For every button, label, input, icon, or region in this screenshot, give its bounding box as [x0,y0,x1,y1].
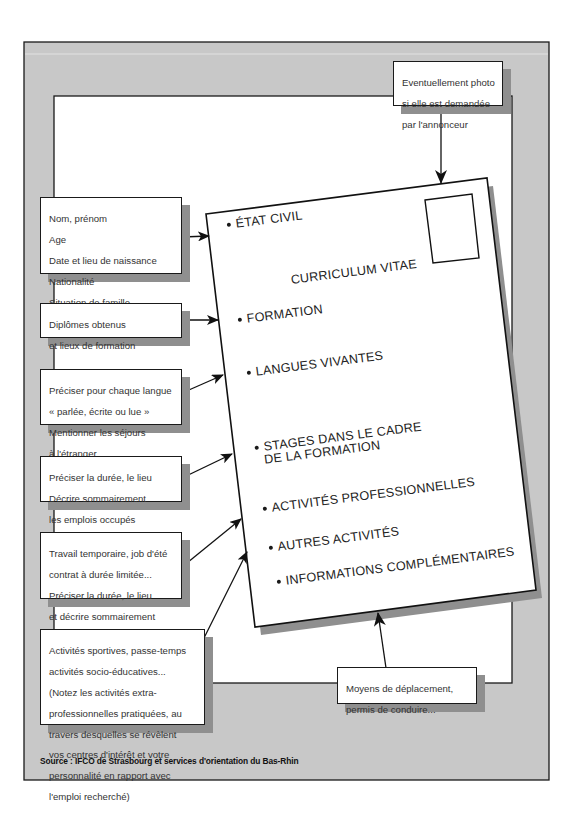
callout-etat-civil: Nom, prénom Age Date et lieu de naissanc… [40,197,182,274]
bullet-icon [263,506,267,510]
callout-complementaires: Moyens de déplacement, permis de conduir… [337,667,477,704]
bullet-icon [269,545,273,549]
bullet-icon [277,579,281,583]
source-caption: Source : IFCO de Strasbourg et services … [40,756,298,766]
callout-stages: Préciser la durée, le lieu Décrire somma… [40,456,182,502]
callout-formation: Diplômes obtenus et lieux de formation [40,303,182,338]
bullet-icon [254,445,258,449]
callout-photo: Eventuellement photo si elle est demandé… [393,61,503,106]
callout-langues: Préciser pour chaque langue « parlée, éc… [40,369,182,425]
callout-autres-activites: Activités sportives, passe-temps activit… [40,629,205,725]
photo-box [425,194,479,263]
bullet-icon [227,222,231,226]
cv-diagram: ÉTAT CIVIL CURRICULUM VITAE FORMATION LA… [0,0,578,820]
callout-activites-pro: Travail temporaire, job d'été contrat à … [40,532,182,599]
bullet-icon [238,317,242,321]
bullet-icon [247,370,251,374]
